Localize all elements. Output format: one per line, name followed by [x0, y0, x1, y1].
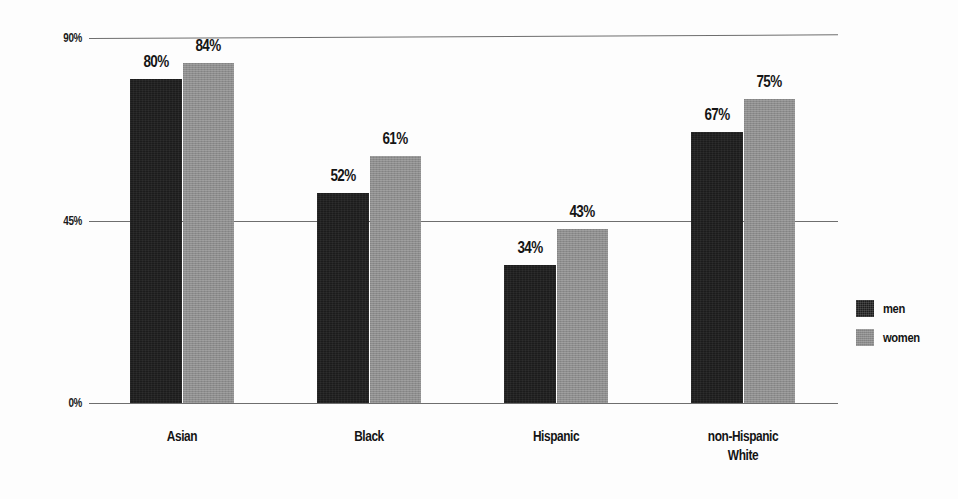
bar-value-men-hispanic: 34% — [506, 239, 555, 257]
chart-legend: men women — [856, 300, 954, 358]
chart-figure: 90% 45% 0% 80% 84% Asian 52% 61% Black 3… — [0, 0, 958, 499]
x-category-label-non-hispanic-white: non-Hispanic White — [662, 427, 824, 465]
bar-value-men-non-hispanic-white: 67% — [693, 106, 742, 124]
legend-label-men: men — [883, 301, 905, 316]
legend-label-women: women — [883, 330, 920, 345]
x-category-label-hispanic: Hispanic — [475, 427, 637, 446]
x-category-label-black: Black — [288, 427, 450, 446]
legend-swatch-men-icon — [856, 300, 874, 317]
bar-men-asian — [130, 79, 182, 403]
bar-women-asian — [183, 63, 234, 403]
legend-item-women: women — [856, 329, 954, 346]
axis-baseline-0 — [89, 403, 838, 404]
legend-item-men: men — [856, 300, 954, 317]
bar-value-women-non-hispanic-white: 75% — [745, 73, 794, 91]
bar-men-hispanic — [504, 265, 556, 403]
bar-women-non-hispanic-white — [744, 99, 795, 403]
bar-men-black — [317, 193, 369, 403]
y-tick-label-45: 45% — [43, 214, 82, 228]
y-tick-label-90: 90% — [43, 31, 82, 45]
bar-value-women-black: 61% — [371, 130, 420, 148]
bar-men-non-hispanic-white — [691, 132, 743, 403]
bar-women-hispanic — [557, 229, 608, 403]
bar-value-men-asian: 80% — [132, 53, 181, 71]
y-tick-label-0: 0% — [43, 396, 82, 410]
bar-women-black — [370, 156, 421, 403]
bar-value-women-asian: 84% — [184, 37, 233, 55]
legend-swatch-women-icon — [856, 329, 874, 346]
plot-area: 90% 45% 0% 80% 84% Asian 52% 61% Black 3… — [0, 0, 958, 499]
bar-value-men-black: 52% — [319, 167, 368, 185]
bar-value-women-hispanic: 43% — [558, 203, 607, 221]
x-category-label-asian: Asian — [101, 427, 263, 446]
